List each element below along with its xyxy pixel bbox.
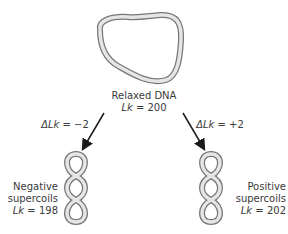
relaxed-dna-label: Relaxed DNA Lk = 200 [104, 90, 184, 114]
left-arrow-label: ΔLk = −2 [40, 119, 90, 131]
positive-supercoil-icon [202, 154, 220, 222]
right-arrow-label: ΔLk = +2 [195, 119, 245, 131]
negative-supercoil-icon [67, 154, 85, 222]
relaxed-dna-loop-icon [100, 15, 181, 81]
relaxed-lk: Lk = 200 [104, 102, 184, 114]
relaxed-title: Relaxed DNA [104, 90, 184, 102]
positive-supercoils-label: Positive supercoils Lk = 202 [228, 181, 286, 217]
negative-supercoils-label: Negative supercoils Lk = 198 [0, 181, 58, 217]
